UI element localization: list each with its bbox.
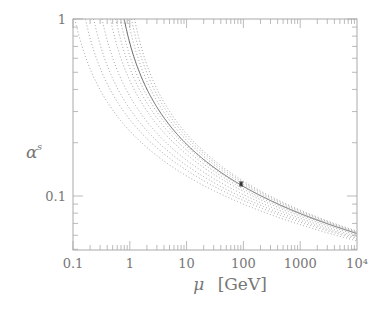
x-tick-label: 0.1 xyxy=(63,256,84,271)
y-axis-label-subscript: s xyxy=(37,141,42,152)
y-axis-tick-labels: 0.11 xyxy=(45,12,66,204)
x-tick-label: 100 xyxy=(231,256,256,271)
variant-curve xyxy=(116,19,357,234)
plot-frame xyxy=(73,19,357,250)
data-points xyxy=(239,182,243,186)
alpha-s-running-chart: 0.1110100100010⁴ 0.11 μ [GeV] α s xyxy=(0,0,385,312)
variant-curve xyxy=(134,19,357,231)
variant-curve xyxy=(111,19,358,235)
variant-curve xyxy=(86,19,358,239)
variant-curve xyxy=(132,19,358,232)
curves xyxy=(75,19,357,241)
x-tick-label: 1 xyxy=(126,256,134,271)
x-tick-label: 10⁴ xyxy=(346,256,368,271)
y-tick-label: 0.1 xyxy=(45,189,66,204)
central-curve xyxy=(124,19,357,234)
x-axis-label: μ [GeV] xyxy=(193,274,267,294)
variant-curve xyxy=(102,19,357,236)
variant-curve xyxy=(75,19,357,241)
x-tick-label: 10 xyxy=(178,256,195,271)
x-axis-tick-labels: 0.1110100100010⁴ xyxy=(63,256,368,271)
x-tick-label: 1000 xyxy=(284,256,317,271)
y-axis-ticks xyxy=(73,19,357,249)
y-tick-label: 1 xyxy=(58,12,66,27)
variant-curve xyxy=(120,19,357,233)
variant-curve xyxy=(128,20,357,233)
variant-curve xyxy=(93,19,357,238)
